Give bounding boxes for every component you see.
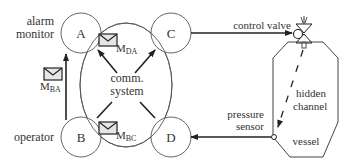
diagram-canvas: A C B D comm. system MBA MDA MBC alarm [0, 0, 352, 166]
m-da-main: M [116, 42, 126, 54]
line-from-b [97, 102, 112, 118]
pressure-sensor-icon [272, 135, 277, 140]
envelope-m-da: MDA [99, 34, 138, 56]
hidden-channel-label-2: channel [293, 100, 327, 112]
m-bc-sub: BC [126, 134, 137, 143]
arrow-to-c [135, 50, 155, 73]
node-c-label: C [167, 26, 176, 41]
comm-label-2: system [110, 84, 144, 98]
node-d: D [151, 117, 191, 157]
svg-text:MBC: MBC [116, 129, 136, 143]
svg-text:MBA: MBA [40, 80, 61, 94]
node-b-label: B [77, 130, 86, 145]
node-d-label: D [166, 130, 175, 145]
alarm-monitor-label-1: alarm [27, 14, 55, 28]
m-da-sub: DA [126, 47, 138, 56]
control-valve-icon [294, 16, 313, 48]
m-ba-sub: BA [50, 85, 61, 94]
svg-text:MDA: MDA [116, 42, 138, 56]
node-a: A [61, 13, 101, 53]
alarm-monitor-label-2: monitor [16, 27, 54, 41]
node-a-label: A [76, 26, 86, 41]
hidden-channel-label-1: hidden [296, 87, 326, 99]
comm-label-1: comm. [111, 71, 144, 85]
m-bc-main: M [116, 129, 126, 141]
m-ba-main: M [40, 80, 50, 92]
pressure-sensor-label-1: pressure [227, 108, 264, 120]
control-valve-label: control valve [233, 19, 291, 31]
envelope-m-ba: MBA [40, 68, 62, 94]
node-b: B [61, 117, 101, 157]
operator-label: operator [14, 130, 54, 144]
line-from-d [140, 102, 155, 118]
arrow-to-a [98, 50, 117, 73]
node-c: C [151, 13, 191, 53]
pressure-sensor-label-2: sensor [236, 120, 264, 132]
vessel-label: vessel [293, 135, 320, 147]
